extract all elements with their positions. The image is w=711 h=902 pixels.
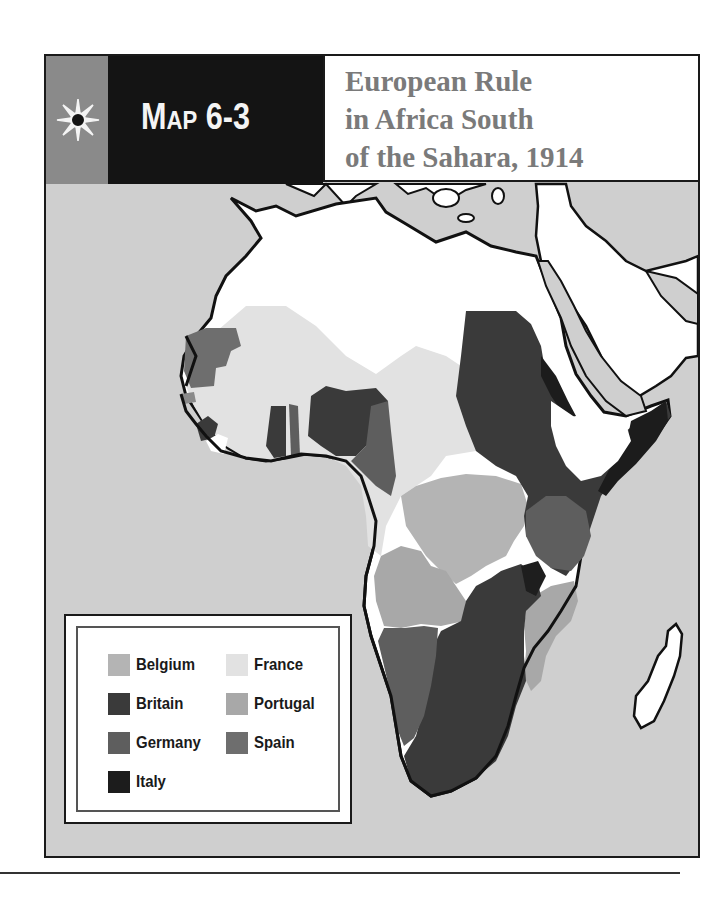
legend-item-italy: Italy <box>108 771 170 793</box>
legend-swatch-france <box>226 654 248 676</box>
legend-item-germany: Germany <box>108 732 210 754</box>
legend-swatch-britain <box>108 693 130 715</box>
mediterranean-island <box>492 188 504 204</box>
sun-compass-icon <box>56 98 100 142</box>
page-bottom-rule <box>0 872 680 874</box>
legend-swatch-belgium <box>108 654 130 676</box>
legend-swatch-germany <box>108 732 130 754</box>
title-box: European Rule in Africa South of the Sah… <box>323 56 698 182</box>
title-line-1: European Rule <box>345 62 583 100</box>
legend-label: Italy <box>136 772 166 792</box>
legend-inner-border: Belgium France Britain Portugal Germany … <box>76 626 340 812</box>
legend-label: Germany <box>136 733 201 753</box>
map-number-label: MAP 6-3 <box>141 96 250 138</box>
mediterranean-island <box>433 189 459 207</box>
legend-item-france: France <box>226 654 310 676</box>
legend-item-portugal: Portugal <box>226 693 323 715</box>
legend-label: Portugal <box>254 694 315 714</box>
legend-label: France <box>254 655 303 675</box>
legend-item-belgium: Belgium <box>108 654 203 676</box>
map-frame: MAP 6-3 European Rule in Africa South of… <box>44 54 700 858</box>
map-header: MAP 6-3 European Rule in Africa South of… <box>46 56 698 184</box>
legend-swatch-italy <box>108 771 130 793</box>
legend-label: Britain <box>136 694 183 714</box>
legend-swatch-spain <box>226 732 248 754</box>
legend-swatch-portugal <box>226 693 248 715</box>
map-title: European Rule in Africa South of the Sah… <box>345 62 583 176</box>
title-line-2: in Africa South <box>345 100 583 138</box>
legend-item-spain: Spain <box>226 732 300 754</box>
legend-label: Belgium <box>136 655 195 675</box>
title-line-3: of the Sahara, 1914 <box>345 138 583 176</box>
legend-label: Spain <box>254 733 295 753</box>
legend: Belgium France Britain Portugal Germany … <box>64 614 352 824</box>
legend-item-britain: Britain <box>108 693 190 715</box>
mediterranean-island <box>458 214 474 222</box>
